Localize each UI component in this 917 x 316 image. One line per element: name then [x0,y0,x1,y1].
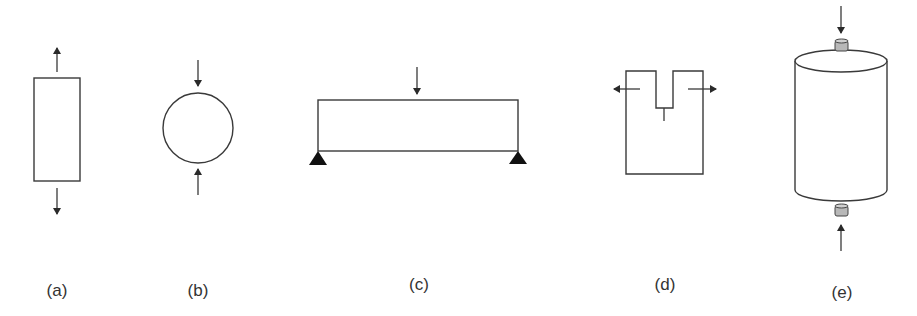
label-a: (a) [47,281,68,300]
panel-b-disk [163,60,233,195]
panel-e-cylinder [795,6,887,251]
figure: (a) (b) (c) (d) (e) [0,0,917,316]
label-b: (b) [188,281,209,300]
cylinder-body [795,61,887,201]
notched-specimen [626,71,703,174]
panel-d-notched [614,71,716,174]
support-right-icon [509,151,527,164]
rect-specimen [34,78,80,181]
diagram-canvas: (a) (b) (c) (d) (e) [0,0,917,316]
panel-c-beam [309,67,527,165]
label-e: (e) [832,283,853,302]
panel-a-tension [34,48,80,214]
label-c: (c) [409,275,429,294]
support-left-icon [309,151,327,165]
cylinder-top [795,50,887,72]
label-d: (d) [655,275,676,294]
disk-specimen [163,93,233,163]
beam-specimen [318,100,518,151]
